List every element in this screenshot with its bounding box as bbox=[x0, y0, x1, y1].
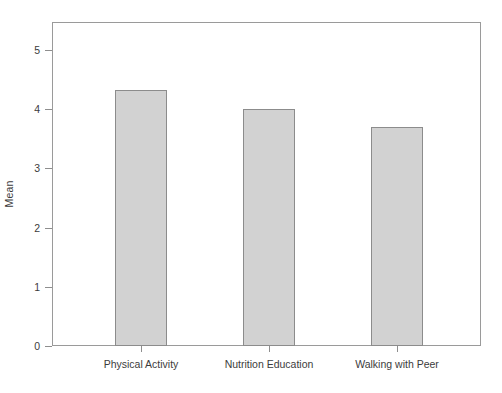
bar-chart: Mean 5 4 3 2 1 0 Physical Activity Nutri… bbox=[0, 0, 502, 393]
x-tick-mark-1 bbox=[141, 346, 142, 352]
y-tick-mark-1 bbox=[45, 287, 52, 288]
y-tick-label-5: 5 bbox=[10, 42, 40, 58]
y-tick-label-2: 2 bbox=[10, 220, 40, 236]
y-tick-label-1: 1 bbox=[10, 279, 40, 295]
y-tick-mark-3 bbox=[45, 168, 52, 169]
bar-physical-activity bbox=[115, 90, 167, 346]
x-tick-label-walking-with-peer: Walking with Peer bbox=[322, 358, 472, 370]
y-tick-mark-5 bbox=[45, 50, 52, 51]
y-tick-mark-4 bbox=[45, 109, 52, 110]
y-tick-mark-2 bbox=[45, 228, 52, 229]
y-tick-mark-0 bbox=[45, 346, 52, 347]
y-tick-label-4: 4 bbox=[10, 101, 40, 117]
y-tick-label-0: 0 bbox=[10, 338, 40, 354]
x-tick-mark-3 bbox=[397, 346, 398, 352]
bar-nutrition-education bbox=[243, 109, 295, 346]
x-tick-mark-2 bbox=[269, 346, 270, 352]
bar-walking-with-peer bbox=[371, 127, 423, 346]
y-tick-label-3: 3 bbox=[10, 160, 40, 176]
